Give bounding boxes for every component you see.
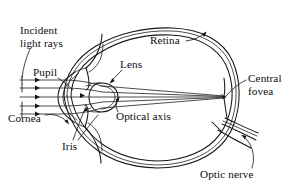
leader-retina-arrowhead xyxy=(202,32,207,37)
light-ray-3 xyxy=(20,98,224,107)
fovea-notch-upper xyxy=(224,78,225,96)
ray-arrowhead-3 xyxy=(35,104,40,109)
ciliary-body-lower xyxy=(85,127,101,163)
light-ray-2 xyxy=(20,88,224,97)
label-cornea: Cornea xyxy=(8,112,41,125)
lens-inner-contour xyxy=(101,86,115,109)
label-incident-light-rays: Incident light rays xyxy=(20,24,63,49)
label-iris: Iris xyxy=(62,140,77,153)
ciliary-process-lower xyxy=(88,123,102,151)
label-optical-axis: Optical axis xyxy=(116,110,171,123)
eye-diagram: Incident light rays Pupil Cornea Iris Le… xyxy=(0,0,296,194)
label-lens: Lens xyxy=(120,58,142,71)
leader-optic-nerve xyxy=(243,136,254,168)
ray-arrowhead-2 xyxy=(35,86,40,91)
label-pupil: Pupil xyxy=(33,66,57,79)
leader-incident-light-rays xyxy=(22,49,30,78)
optic-disc-junction xyxy=(212,122,222,132)
label-central-fovea: Central fovea xyxy=(248,72,282,97)
leader-cornea xyxy=(45,114,68,123)
fovea-convergence-point xyxy=(223,96,226,99)
iris-upper xyxy=(86,68,89,90)
label-optic-nerve: Optic nerve xyxy=(200,168,254,181)
fovea-notch-lower xyxy=(224,98,227,118)
ray-arrowhead-axis xyxy=(35,95,40,100)
optic-nerve-core-line xyxy=(223,121,257,136)
label-retina: Retina xyxy=(150,34,180,47)
